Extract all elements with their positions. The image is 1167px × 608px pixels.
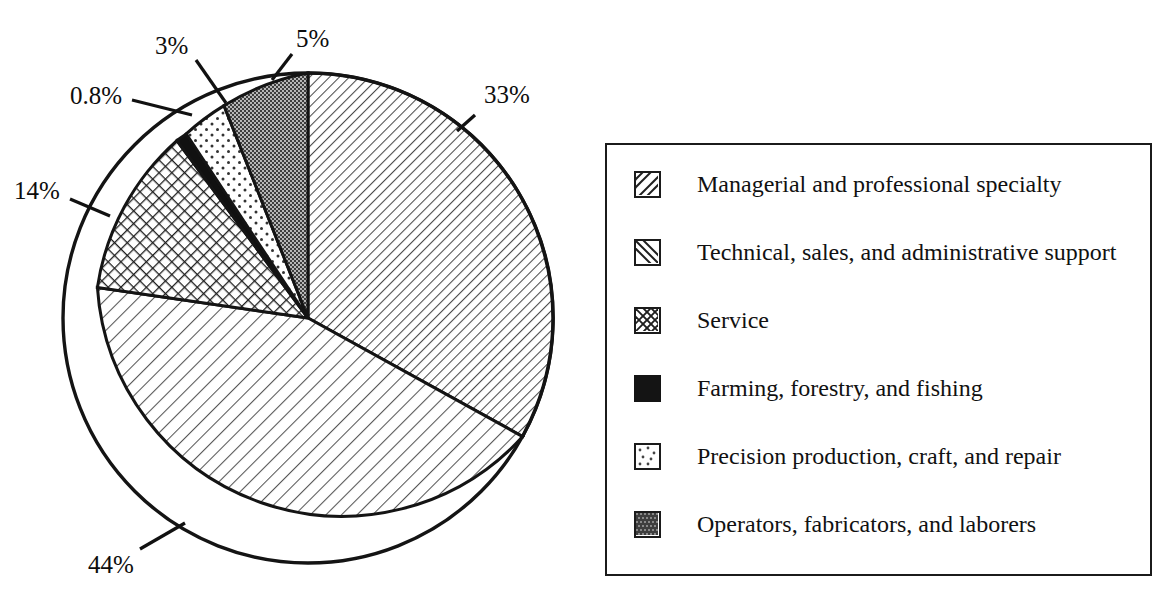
swatch-dense-stipple-icon (634, 511, 661, 538)
pie-label-precision: 3% (155, 33, 188, 58)
swatch-sparse-dots-icon (634, 443, 661, 470)
pie-label-farming: 0.8% (70, 83, 122, 108)
legend-label-technical: Technical, sales, and administrative sup… (697, 238, 1117, 266)
legend-item-technical: Technical, sales, and administrative sup… (634, 235, 1117, 269)
pie-label-managerial: 33% (484, 82, 530, 107)
swatch-crosshatch-icon (634, 307, 661, 334)
pie-chart-area: 33% 44% 14% 0.8% 3% 5% (0, 0, 600, 608)
legend: Managerial and professional specialty Te… (605, 143, 1152, 576)
swatch-diagonal-hatch-fine-icon (634, 171, 661, 198)
pie-label-operators: 5% (296, 26, 329, 51)
swatch-diagonal-hatch-wide-icon (634, 239, 661, 266)
legend-item-service: Service (634, 303, 769, 337)
legend-item-precision: Precision production, craft, and repair (634, 439, 1061, 473)
legend-item-farming: Farming, forestry, and fishing (634, 371, 983, 405)
legend-label-farming: Farming, forestry, and fishing (697, 374, 983, 402)
leader-line-service (70, 199, 110, 216)
leader-line-technical (140, 523, 185, 549)
legend-label-service: Service (697, 306, 769, 334)
legend-item-managerial: Managerial and professional specialty (634, 167, 1062, 201)
pie-chart-figure: Employment by occupation (0, 0, 1167, 608)
pie-label-service: 14% (14, 178, 60, 203)
swatch-solid-black-icon (634, 375, 661, 402)
legend-label-managerial: Managerial and professional specialty (697, 170, 1062, 198)
pie-label-technical: 44% (88, 552, 134, 577)
legend-label-precision: Precision production, craft, and repair (697, 442, 1061, 470)
legend-item-operators: Operators, fabricators, and laborers (634, 507, 1036, 541)
legend-label-operators: Operators, fabricators, and laborers (697, 510, 1036, 538)
